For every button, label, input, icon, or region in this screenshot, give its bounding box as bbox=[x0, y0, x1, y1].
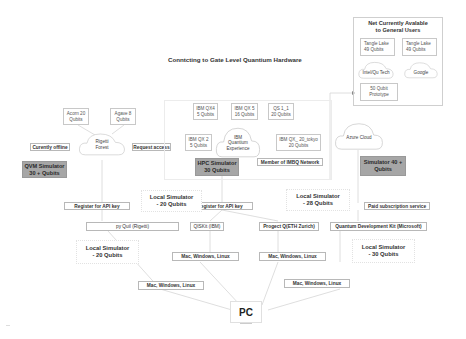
device-qubits: 20 Qubits bbox=[289, 143, 309, 149]
microsoft-os-platforms: Mac, Windows, Linux bbox=[284, 279, 350, 288]
not-available-heading-line2: to General Users bbox=[353, 27, 443, 34]
ibm-quantum-experience-cloud: IBM Quantium Experience bbox=[214, 124, 262, 160]
rigetti-forest-cloud: Rigetti Forest bbox=[77, 127, 127, 161]
ibm-qx4-box: IBM QX4 5 Qubits bbox=[193, 103, 218, 120]
ibm-os-platforms: Mac, Windows, Linux bbox=[172, 252, 239, 261]
acorn-device-box: Acorn 20 Qubits bbox=[63, 108, 89, 125]
pc-base bbox=[240, 323, 252, 324]
cloud-label: Rigetti Forest bbox=[95, 139, 108, 150]
cloud-label: Intel/Qu Tech bbox=[363, 70, 390, 76]
eth-local-simulator: Local Simulator - 28 Qubits bbox=[286, 189, 350, 211]
qiskit-sdk[interactable]: QISKit (IBM) bbox=[190, 222, 224, 231]
hpc-simulator-box: HPC Simulator 30 Qubits bbox=[195, 158, 239, 176]
pyquil-sdk[interactable]: py Quil (Rigetti) bbox=[86, 222, 179, 231]
pc-node: PC bbox=[230, 301, 262, 323]
rigetti-register-api-key[interactable]: Register for API key bbox=[64, 202, 130, 210]
diagram-title: Conntcting to Gate Level Quantium Hardwa… bbox=[168, 56, 302, 63]
device-qubits: 49 Qubits bbox=[364, 47, 384, 53]
azure-simulator-box: Simulator 40 + Qubits bbox=[360, 156, 406, 176]
sim-line1: Simulator 40 + bbox=[364, 159, 402, 166]
ibm-qx5-box: IBM QX 5 16 Qubits bbox=[231, 103, 258, 120]
ibm-tokyo-box: IBM QX_ 20_tokyo 20 Qubits bbox=[276, 134, 321, 151]
tangle-lake-box: Tangle Lake 49 Qubits bbox=[402, 38, 437, 56]
cloud-label-line3: Experience bbox=[227, 146, 250, 152]
google-cloud: Google bbox=[403, 59, 439, 81]
margin-mark bbox=[6, 325, 10, 326]
prototype-line2: Prototype bbox=[369, 92, 389, 98]
sim-line2: 30 Qubits bbox=[204, 167, 230, 174]
qs11-box: QS 1_1 20 Qubits bbox=[268, 103, 294, 120]
ibm-local-simulator: Local Simulator - 20 Qubits bbox=[141, 190, 202, 212]
azure-cloud: Azure Cloud bbox=[333, 120, 385, 152]
device-qubits: Qubits bbox=[69, 117, 82, 123]
microsoft-local-simulator: Local Simulator - 30 Qubits bbox=[352, 239, 415, 263]
not-available-heading: Net Currently Avalable to General Users bbox=[353, 20, 443, 34]
local-line2: - 20 Qubits bbox=[157, 201, 187, 208]
sim-line2: 30 + Qubits bbox=[29, 170, 59, 177]
agave-device-box: Agave 8 Qubits bbox=[110, 108, 136, 125]
device-qubits: 5 Qubits bbox=[190, 143, 207, 149]
device-qubits: 16 Qubits bbox=[235, 112, 255, 118]
cloud-label-line2: Quantium bbox=[227, 140, 250, 146]
projectq-sdk[interactable]: Progect Q(ETH Zurich) bbox=[259, 222, 319, 231]
local-line1: Local Simulator bbox=[150, 194, 194, 201]
device-qubits: 5 Qubits bbox=[197, 112, 214, 118]
not-available-heading-line1: Net Currently Avalable bbox=[353, 20, 443, 27]
paid-subscription-service: Paid subscription service bbox=[364, 202, 430, 210]
device-qubits: 49 Qubits bbox=[406, 47, 426, 53]
cloud-label: Google bbox=[414, 70, 429, 76]
ibm-qx2-box: IBM QX 2 5 Qubits bbox=[185, 134, 212, 151]
cloud-label: IBM Quantium Experience bbox=[227, 135, 250, 152]
qvm-simulator-box: QVM Simulator 30 + Qubits bbox=[22, 161, 67, 178]
local-line2: - 20 Qubits bbox=[93, 252, 123, 259]
device-qubits: 20 Qubits bbox=[271, 112, 291, 118]
offline-status: Curently offline bbox=[30, 143, 70, 151]
eth-os-platforms: Mac, Windows, Linux bbox=[259, 252, 326, 261]
sim-line1: QVM Simulator bbox=[24, 163, 64, 170]
cloud-label: Azure Cloud bbox=[346, 135, 371, 141]
sim-line1: HPC Simulator bbox=[197, 160, 236, 167]
local-line2: - 28 Qubits bbox=[303, 200, 333, 207]
local-line2: - 30 Qubits bbox=[369, 251, 399, 258]
local-line1: Local Simulator bbox=[362, 244, 406, 251]
rigetti-os-platforms: Mac, Windows, Linux bbox=[138, 281, 204, 290]
imbq-network-membership: Member of IMBQ Network bbox=[257, 158, 323, 166]
intel-qutech-cloud: Intel/Qu Tech bbox=[357, 59, 395, 81]
local-line1: Local Simulator bbox=[296, 193, 340, 200]
local-line1: Local Simulator bbox=[86, 245, 130, 252]
quantum-development-kit-sdk[interactable]: Quantum Development Kit (Microsoft) bbox=[330, 222, 427, 231]
tangle-lake-box: Tangle Lake 49 Qubits bbox=[360, 38, 395, 56]
sim-line2: Qubits bbox=[374, 166, 392, 173]
rigetti-local-simulator: Local Simulator - 20 Qubits bbox=[76, 240, 139, 264]
prototype-box: 50 Qubit Prototype bbox=[360, 83, 398, 101]
cloud-label-line2: Forest bbox=[95, 145, 108, 151]
device-qubits: Qubits bbox=[116, 117, 129, 123]
